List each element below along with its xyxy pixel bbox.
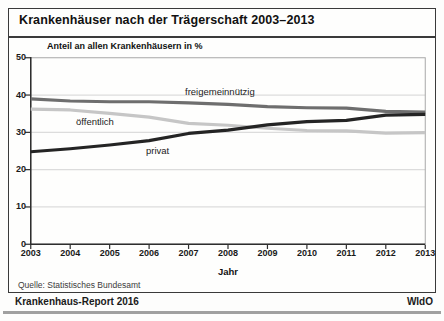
- footer-row: Krankenhaus-Report 2016 WIdO: [0, 296, 444, 310]
- figure-krankenhaeuser-traegerschaft: Krankenhäuser nach der Trägerschaft 2003…: [0, 0, 444, 321]
- y-tick-label: 40: [0, 90, 26, 101]
- x-tick-label: 2010: [290, 248, 324, 259]
- x-tick-label: 2004: [53, 248, 87, 259]
- series-label-oeffentlich: öffentlich: [76, 116, 114, 127]
- x-tick-label: 2011: [329, 248, 363, 259]
- y-tick-label: 10: [0, 201, 26, 212]
- y-axis-title: Anteil an allen Krankenhäusern in %: [47, 41, 203, 51]
- y-tick-label: 50: [0, 52, 26, 63]
- x-tick-label: 2006: [132, 248, 166, 259]
- x-tick-label: 2008: [211, 248, 245, 259]
- series-label-freigemeinnuetzig: freigemeinnützig: [185, 86, 255, 97]
- bottom-rule: [3, 311, 441, 314]
- title-separator: [8, 36, 436, 38]
- source-note: Quelle: Statistisches Bundesamt: [18, 280, 140, 290]
- x-tick-label: 2012: [369, 248, 403, 259]
- x-tick-label: 2009: [250, 248, 284, 259]
- y-tick-label: 30: [0, 127, 26, 138]
- report-name: Krankenhaus-Report 2016: [15, 296, 139, 307]
- x-tick-label: 2007: [172, 248, 206, 259]
- x-tick-label: 2013: [408, 248, 442, 259]
- publisher-logo-text: WIdO: [407, 296, 433, 307]
- chart-title: Krankenhäuser nach der Trägerschaft 2003…: [19, 13, 315, 27]
- series-label-privat: privat: [146, 145, 169, 156]
- x-tick-label: 2005: [93, 248, 127, 259]
- x-tick-label: 2003: [14, 248, 48, 259]
- y-tick-label: 20: [0, 164, 26, 175]
- x-axis-title: Jahr: [205, 266, 251, 277]
